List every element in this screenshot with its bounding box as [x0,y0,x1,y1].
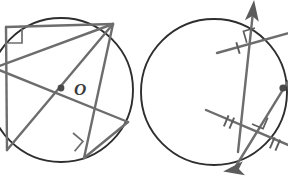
geometry-canvas: O [0,0,288,181]
left-center-point [58,85,65,92]
right-upper-ray [238,12,253,152]
left-center-label: O [74,80,86,99]
left-bottom-right-angle-icon [65,133,83,151]
right-lower-ray [236,62,288,166]
left-diagonal-left-to-right [0,68,128,122]
geometry-figure-board: O [0,0,288,181]
left-circle [0,18,133,162]
right-center-point [279,84,286,91]
left-figure: O [0,18,133,162]
left-side-segment [6,27,7,150]
right-figure [141,0,288,178]
right-upper-chord [217,30,288,53]
